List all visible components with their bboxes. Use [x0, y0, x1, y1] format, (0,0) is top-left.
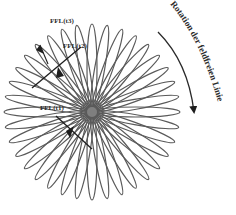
label-ffl-t3: FFL(t3) [50, 17, 74, 25]
label-ffl-t2: FFL(t2) [63, 42, 87, 50]
field-free-line-petals [4, 24, 180, 200]
label-ffl-t1: FFL(t1) [40, 104, 64, 112]
rotation-caption: Rotation der feldfreien Linie [168, 0, 225, 102]
rotation-arrow-icon [158, 32, 194, 112]
center-point [87, 107, 97, 117]
ffl-rotation-diagram: FFL(t3) FFL(t2) FFL(t1) Rotation der fel… [0, 0, 236, 215]
